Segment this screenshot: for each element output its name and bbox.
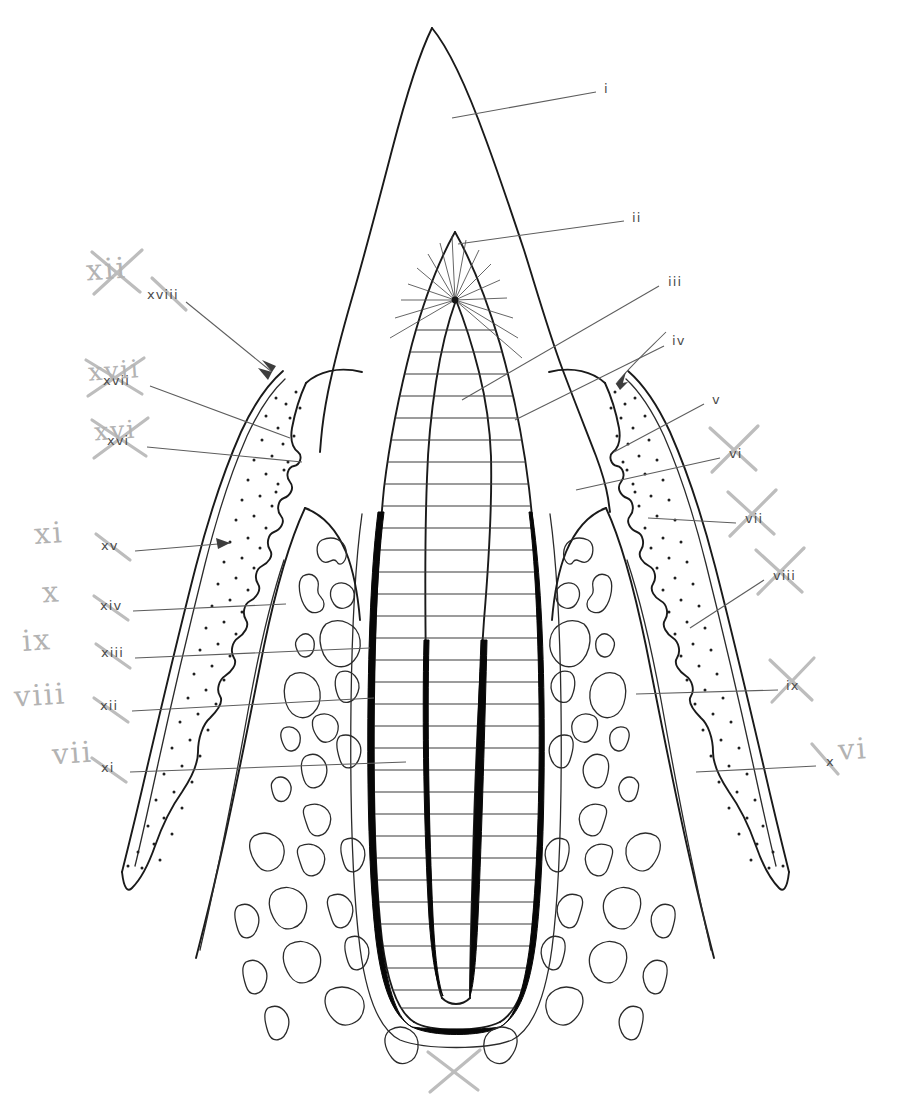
label-iv: iv bbox=[672, 333, 686, 348]
label-v: v bbox=[712, 392, 721, 407]
figure-canvas: i ii iii iv v vi vii viii ix x xi xii xi… bbox=[0, 0, 901, 1111]
dentine-hatching-left bbox=[300, 330, 620, 1008]
leader-lines-right bbox=[452, 92, 816, 772]
label-vii: vii bbox=[745, 511, 763, 526]
strike-marks bbox=[86, 250, 838, 1092]
label-xviii: xviii bbox=[147, 287, 179, 302]
arrowhead-left-mucogingival bbox=[216, 538, 230, 549]
label-iii: iii bbox=[668, 274, 682, 289]
handwritten-xvii: xvii bbox=[87, 354, 141, 387]
leader-vii bbox=[648, 518, 736, 523]
marrow-spaces-right-upper bbox=[549, 538, 638, 836]
leader-xi bbox=[130, 762, 406, 772]
leader-xvi bbox=[147, 447, 302, 462]
alveolar-bone-right bbox=[484, 508, 714, 1063]
leader-iv bbox=[515, 346, 664, 420]
leader-viii bbox=[690, 580, 764, 628]
label-viii: viii bbox=[773, 568, 796, 583]
handwritten-xii: xii bbox=[85, 251, 128, 288]
handwritten-xi: xi bbox=[33, 515, 65, 551]
handwritten-viii: viii bbox=[13, 676, 67, 714]
leader-xiv bbox=[133, 604, 286, 611]
leader-xiii bbox=[135, 648, 370, 658]
handwritten-vii: vii bbox=[51, 735, 94, 772]
label-vi: vi bbox=[729, 446, 743, 461]
label-xii: xii bbox=[100, 698, 118, 713]
marrow-spaces-left-upper bbox=[271, 538, 360, 836]
cementum-region bbox=[368, 512, 544, 1035]
leader-x bbox=[696, 766, 816, 772]
leader-xviii bbox=[186, 302, 272, 372]
leader-xvii bbox=[150, 386, 290, 438]
enamel-crown-region bbox=[320, 28, 610, 512]
handwritten-ix: ix bbox=[21, 622, 53, 658]
label-xiv: xiv bbox=[100, 598, 122, 613]
leader-ix bbox=[636, 690, 778, 694]
marrow-spaces-left-lower bbox=[235, 833, 419, 1063]
tooth-anatomy-drawing bbox=[0, 0, 901, 1111]
handwritten-vi-right: vi bbox=[837, 731, 869, 767]
label-ii: ii bbox=[632, 210, 641, 225]
marrow-spaces-right-lower bbox=[484, 833, 676, 1063]
label-x: x bbox=[826, 754, 835, 769]
label-i: i bbox=[604, 81, 609, 96]
leader-xv bbox=[135, 543, 230, 551]
label-ix: ix bbox=[786, 678, 800, 693]
leader-ii bbox=[458, 221, 624, 244]
label-xi: xi bbox=[101, 760, 115, 775]
pulp-horn-apex bbox=[452, 297, 459, 304]
label-xv: xv bbox=[101, 538, 119, 553]
label-xiii: xiii bbox=[101, 645, 124, 660]
gingiva-right bbox=[549, 370, 789, 890]
handwritten-x: x bbox=[41, 574, 62, 609]
arrowhead-right-gingival-crest bbox=[616, 332, 666, 390]
dentine-region bbox=[300, 232, 620, 1030]
handwritten-xvi: xvi bbox=[93, 415, 137, 447]
dentine-hatching-right bbox=[300, 330, 620, 1008]
